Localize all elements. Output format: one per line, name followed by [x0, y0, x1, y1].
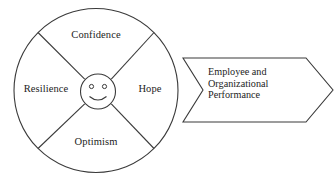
wheel-segment-label-confidence: Confidence: [0, 30, 192, 41]
smiley-left-eye-icon: [89, 84, 93, 88]
outcome-arrow-text-line-3: Performance: [208, 89, 308, 101]
diagram-canvas: Confidence Hope Optimism Resilience Empl…: [0, 0, 336, 184]
smiley-face-icon: [81, 74, 116, 109]
outcome-arrow-text-line-2: Organizational: [208, 78, 308, 90]
smiley-right-eye-icon: [102, 84, 106, 88]
smiley-mouth-icon: [90, 97, 107, 101]
outcome-arrow-text-line-1: Employee and: [208, 66, 308, 78]
wheel-segment-label-hope: Hope: [124, 84, 176, 95]
outcome-arrow-text: Employee and Organizational Performance: [208, 66, 308, 101]
wheel-segment-label-optimism: Optimism: [0, 137, 192, 148]
wheel-segment-label-resilience: Resilience: [14, 84, 78, 95]
